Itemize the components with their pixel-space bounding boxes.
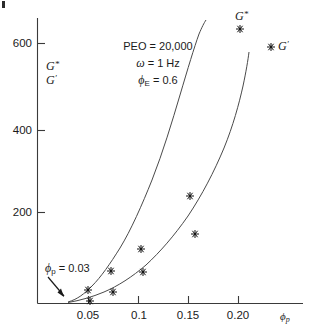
marker-g-star-1 <box>107 267 115 275</box>
marker-g-prime-4 <box>267 43 275 51</box>
curve-label-g-prime-superscript: ′ <box>287 39 289 49</box>
curve-label-g-star: G* <box>235 10 248 22</box>
annotation-omega: ω = 1 Hz <box>108 57 208 69</box>
marker-g-star-4 <box>236 25 244 33</box>
curve-label-g-prime-letter: G <box>278 39 287 53</box>
y-tick-label-400: 400 <box>0 125 32 137</box>
omega-symbol: ω <box>136 56 144 70</box>
omega-value: = 1 Hz <box>145 57 180 69</box>
x-axis-title: ϕp <box>280 311 290 324</box>
annotation-phi-e: ϕE = 0.6 <box>108 74 208 88</box>
y-axis-title-gstar: G* <box>46 60 59 72</box>
marker-g-prime-2 <box>139 268 147 276</box>
marker-g-star-0 <box>84 286 92 294</box>
curve-label-g-star-letter: G <box>235 9 244 23</box>
annotation-peo: PEO = 20,000 <box>108 41 208 52</box>
phi-p-annotation-arrow <box>48 277 64 297</box>
y-axis-gstar-letter: G <box>46 59 55 73</box>
x-tick-label-01: 0.1 <box>119 310 159 322</box>
marker-g-prime-3 <box>191 230 199 238</box>
x-tick-label-005: 0.05 <box>68 310 108 322</box>
y-axis-gprime-superscript: ′ <box>55 73 57 83</box>
x-tick-label-015: 0.15 <box>168 310 208 322</box>
marker-g-prime-0 <box>86 297 94 305</box>
y-axis-gstar-superscript: * <box>55 59 60 69</box>
x-axis-phi-subscript: p <box>286 315 290 324</box>
y-axis-title-gprime: G′ <box>46 74 59 86</box>
y-tick-label-200: 200 <box>0 207 32 219</box>
y-axis-gprime-letter: G <box>46 73 55 87</box>
annotation-phi-p-threshold: ϕp = 0.03 <box>45 262 90 276</box>
marker-g-star-2 <box>137 245 145 253</box>
marker-g-prime-1 <box>109 288 117 296</box>
marker-g-star-3 <box>186 192 194 200</box>
x-tick-label-020: 0.20 <box>218 310 258 322</box>
curve-label-g-star-superscript: * <box>244 9 249 19</box>
curve-g-prime <box>68 52 249 303</box>
curve-label-g-prime: G′ <box>278 40 289 52</box>
y-tick-label-600: 600 <box>0 38 32 50</box>
phi-p-value: = 0.03 <box>56 262 90 274</box>
phi-e-value: = 0.6 <box>150 74 178 86</box>
figure-panel: 600 400 200 0.05 0.1 0.15 0.20 ϕp G* G′ … <box>0 0 309 332</box>
y-axis-title: G* G′ <box>46 60 59 86</box>
